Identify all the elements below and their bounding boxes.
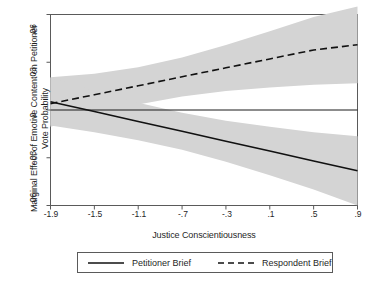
legend-key-dashed-icon [216, 258, 256, 268]
legend: Petitioner Brief Respondent Brief [77, 252, 333, 273]
legend-entry-respondent: Respondent Brief [216, 253, 332, 272]
legend-label-petitioner: Petitioner Brief [132, 258, 191, 268]
x-axis-title: Justice Conscientiousness [50, 230, 358, 240]
chart-figure: .06 .03 0 -.03 -.06 -1.9 -1.5 -1.1 -.7 -… [0, 0, 374, 281]
xtick-label: -.3 [209, 209, 245, 219]
xtick-label: -1.1 [121, 209, 157, 219]
xtick-label: .9 [340, 209, 374, 219]
legend-key-solid-icon [86, 258, 126, 268]
y-axis-title: Marginal Effect of Emotive Content on Pe… [29, 19, 50, 219]
legend-entry-petitioner: Petitioner Brief [86, 253, 191, 272]
xtick-label: .5 [296, 209, 332, 219]
xtick-label: -.7 [165, 209, 201, 219]
xtick-label: .1 [253, 209, 289, 219]
legend-label-respondent: Respondent Brief [262, 258, 332, 268]
xtick-label: -1.5 [77, 209, 113, 219]
